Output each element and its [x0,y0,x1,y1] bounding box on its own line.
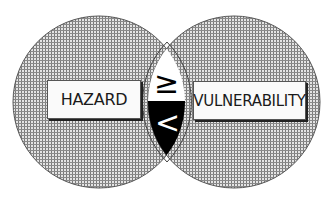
hazard-label: HAZARD [47,80,141,119]
vulnerability-label: VULNERABILITY [193,81,306,120]
greater-equal-symbol: ≥ [154,68,179,98]
hazard-label-text: HAZARD [61,90,128,109]
venn-diagram: HAZARD VULNERABILITY ≥ < [0,0,332,199]
vulnerability-label-text: VULNERABILITY [193,92,305,110]
less-than-symbol: < [155,108,180,138]
